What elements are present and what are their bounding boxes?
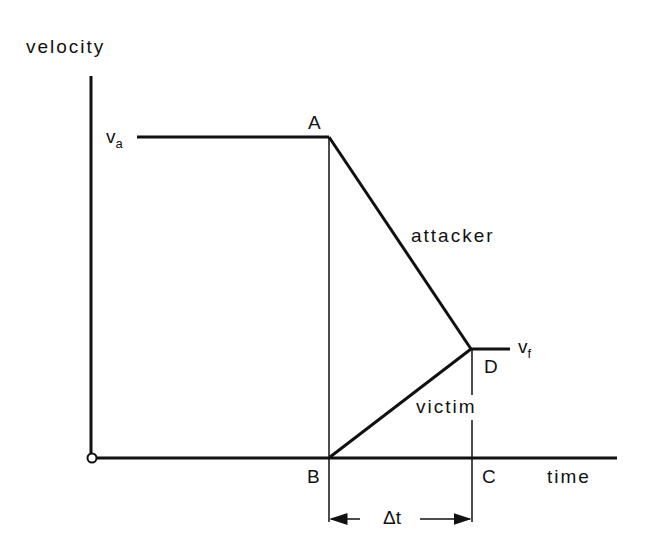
velocity-axis-label: velocity — [26, 36, 105, 58]
point-c-label: C — [482, 466, 496, 488]
velocity-time-diagram: velocity time va vf A B C D attacker vic… — [0, 0, 645, 548]
point-a-label: A — [308, 112, 321, 134]
point-b-label: B — [307, 466, 320, 488]
point-d-label: D — [484, 356, 498, 378]
time-axis-label: time — [547, 466, 591, 488]
victim-label: victim — [416, 396, 477, 418]
initial-velocity-label: va — [106, 126, 123, 151]
origin-marker — [88, 454, 97, 463]
final-velocity-label: vf — [518, 336, 531, 361]
delta-t-label: Δt — [383, 507, 401, 529]
attacker-label: attacker — [411, 225, 495, 247]
